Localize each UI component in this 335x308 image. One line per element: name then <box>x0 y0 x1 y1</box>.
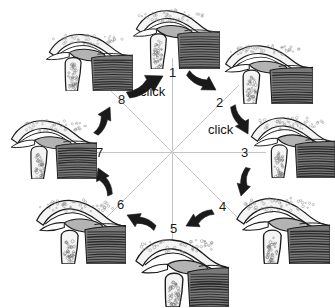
arrow-2-to-3-shape <box>231 105 249 134</box>
position-7-label: 7 <box>96 146 103 159</box>
position-1-label: 1 <box>169 66 176 79</box>
arrow-5-to-6 <box>127 214 156 231</box>
arrow-4-to-5-shape <box>186 210 214 227</box>
arrow-1-to-2 <box>187 71 216 90</box>
position-4-label: 4 <box>219 200 226 213</box>
arrow-6-to-7-shape <box>96 168 112 196</box>
position-3-label: 3 <box>241 146 248 159</box>
arrow-4-to-5 <box>186 210 214 227</box>
tmj-cycle-diagram: 12345678clickclick <box>0 0 335 308</box>
arrow-3-to-4 <box>237 167 250 196</box>
arrow-7-to-8 <box>94 107 111 135</box>
arrow-2-to-3 <box>231 105 249 134</box>
arrow-5-to-6-shape <box>127 214 156 231</box>
arrow-1-to-2-shape <box>187 71 216 90</box>
cycle-arrow-group <box>0 0 335 308</box>
arrow-3-to-4-shape <box>237 167 250 196</box>
position-5-label: 5 <box>170 222 177 235</box>
arrow-6-to-7 <box>96 168 112 196</box>
click-label-right: click <box>208 123 233 136</box>
position-6-label: 6 <box>117 198 124 211</box>
arrow-7-to-8-shape <box>94 107 111 135</box>
position-2-label: 2 <box>216 96 223 109</box>
click-label-top: click <box>140 85 165 98</box>
position-8-label: 8 <box>118 93 125 106</box>
